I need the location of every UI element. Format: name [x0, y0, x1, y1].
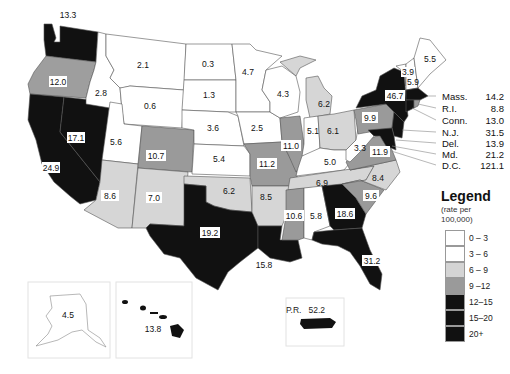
svg-text:5.4: 5.4 [213, 154, 225, 164]
callout-ma: Mass.14.2 [442, 91, 504, 102]
svg-text:1.3: 1.3 [203, 90, 215, 100]
callout-dc: D.C.121.1 [442, 160, 504, 171]
svg-text:5.8: 5.8 [310, 211, 322, 221]
legend-swatch [445, 230, 465, 246]
legend-row-12-15: 12–15 [445, 294, 505, 310]
svg-text:24.9: 24.9 [43, 163, 60, 173]
callout-nj: N.J.31.5 [442, 127, 504, 138]
svg-text:11.0: 11.0 [283, 141, 299, 151]
legend-swatch [445, 262, 465, 278]
svg-text:2.8: 2.8 [95, 88, 107, 98]
state-co [138, 126, 194, 172]
svg-text:11.2: 11.2 [259, 159, 275, 169]
svg-text:15.8: 15.8 [256, 260, 273, 270]
legend-row-20plus: 20+ [445, 326, 505, 342]
svg-text:4.3: 4.3 [277, 89, 289, 99]
svg-text:0.3: 0.3 [202, 59, 214, 69]
legend-swatch [445, 278, 465, 294]
svg-text:5.6: 5.6 [110, 137, 122, 147]
svg-text:8.4: 8.4 [372, 173, 384, 183]
legend-row-3-6: 3 – 6 [445, 246, 505, 262]
svg-text:5.5: 5.5 [424, 54, 436, 64]
svg-text:9.6: 9.6 [365, 191, 377, 201]
legend-row-9-12: 9 –12 [445, 278, 505, 294]
svg-text:3.3: 3.3 [354, 143, 366, 153]
svg-text:11.9: 11.9 [372, 147, 388, 157]
svg-text:6.2: 6.2 [318, 99, 330, 109]
legend-subtitle: (rate per 100,000) [441, 205, 501, 225]
svg-text:12.0: 12.0 [50, 77, 67, 87]
callout-ri: R.I.8.8 [442, 103, 504, 114]
svg-text:4.7: 4.7 [242, 67, 254, 77]
svg-text:5.1: 5.1 [307, 126, 319, 136]
svg-text:6.9: 6.9 [316, 178, 328, 188]
hawaii-inset-frame [116, 282, 192, 358]
svg-text:3.9: 3.9 [402, 67, 414, 77]
svg-text:19.2: 19.2 [202, 228, 219, 238]
callout-md: Md.21.2 [442, 149, 504, 160]
svg-text:4.5: 4.5 [62, 310, 74, 320]
svg-text:2.1: 2.1 [137, 60, 149, 70]
svg-text:5.9: 5.9 [407, 77, 419, 87]
svg-text:13.3: 13.3 [60, 10, 77, 20]
svg-text:8.6: 8.6 [104, 191, 116, 201]
svg-text:3.6: 3.6 [207, 123, 219, 133]
svg-text:10.7: 10.7 [148, 151, 165, 161]
legend-row-0-3: 0 – 3 [445, 230, 505, 246]
state-ct [406, 100, 414, 112]
svg-text:10.6: 10.6 [286, 211, 303, 221]
pr-shape [300, 318, 336, 329]
state-wa [44, 24, 98, 62]
svg-text:7.0: 7.0 [148, 193, 160, 203]
svg-text:9.9: 9.9 [364, 113, 376, 123]
legend-title: Legend [441, 188, 491, 204]
legend-swatch [445, 326, 465, 342]
svg-text:6.2: 6.2 [223, 186, 235, 196]
state-ak [36, 294, 106, 347]
state-ma [406, 88, 428, 100]
svg-text:6.1: 6.1 [327, 126, 339, 136]
us-choropleth-map: 13.3 12.0 17.1 24.9 2.8 2.1 0.6 5.6 8.6 … [0, 0, 510, 374]
callout-de: Del.13.9 [442, 138, 504, 149]
svg-text:8.5: 8.5 [260, 192, 272, 202]
legend-row-6-9: 6 – 9 [445, 262, 505, 278]
callout-ct: Conn.13.0 [442, 115, 504, 126]
legend-row-15-20: 15–20 [445, 310, 505, 326]
svg-text:13.8: 13.8 [145, 324, 162, 334]
svg-text:2.5: 2.5 [251, 123, 263, 133]
svg-text:17.1: 17.1 [68, 133, 85, 143]
pr-label: P.R. 52.2 [286, 305, 325, 315]
svg-text:46.7: 46.7 [387, 91, 404, 101]
legend-swatch [445, 310, 465, 326]
svg-text:5.0: 5.0 [324, 157, 336, 167]
svg-text:18.6: 18.6 [337, 209, 354, 219]
legend-swatch [445, 246, 465, 262]
svg-text:0.6: 0.6 [144, 101, 156, 111]
svg-text:31.2: 31.2 [364, 256, 381, 266]
legend-swatch [445, 294, 465, 310]
